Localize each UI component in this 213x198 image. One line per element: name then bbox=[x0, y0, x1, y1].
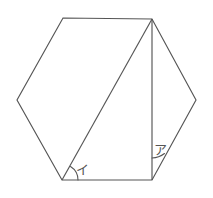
angle-label-a: ア bbox=[154, 142, 167, 157]
diagonal-line bbox=[62, 19, 152, 180]
angle-label-i: イ bbox=[76, 162, 89, 177]
geometry-figure: イ ア bbox=[0, 0, 213, 198]
hexagon-outline bbox=[17, 18, 196, 180]
geometry-canvas: イ ア bbox=[0, 0, 213, 198]
